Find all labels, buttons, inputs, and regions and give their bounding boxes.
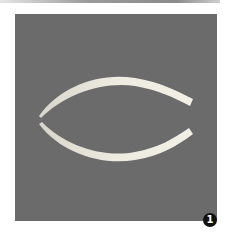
specimen-illustration	[15, 14, 217, 221]
upper-specimen	[39, 77, 193, 118]
photo-panel: 1	[15, 14, 217, 221]
top-rule	[0, 0, 220, 3]
figure-label-badge: 1	[203, 213, 217, 227]
lower-specimen	[39, 122, 193, 161]
